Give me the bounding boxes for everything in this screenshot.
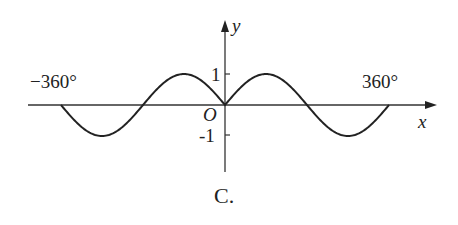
x-axis-arrow-icon — [425, 101, 437, 109]
y-tick-label-1: 1 — [211, 65, 221, 84]
origin-label: O — [203, 105, 217, 124]
caption: C. — [214, 185, 234, 207]
x-tick-label-neg360: −360° — [30, 72, 77, 91]
y-axis-label: y — [232, 16, 240, 35]
x-tick-label-360: 360° — [362, 72, 398, 91]
y-axis-arrow-icon — [221, 20, 229, 32]
x-axis-label: x — [418, 112, 426, 131]
y-tick-label-neg1: -1 — [199, 126, 215, 145]
